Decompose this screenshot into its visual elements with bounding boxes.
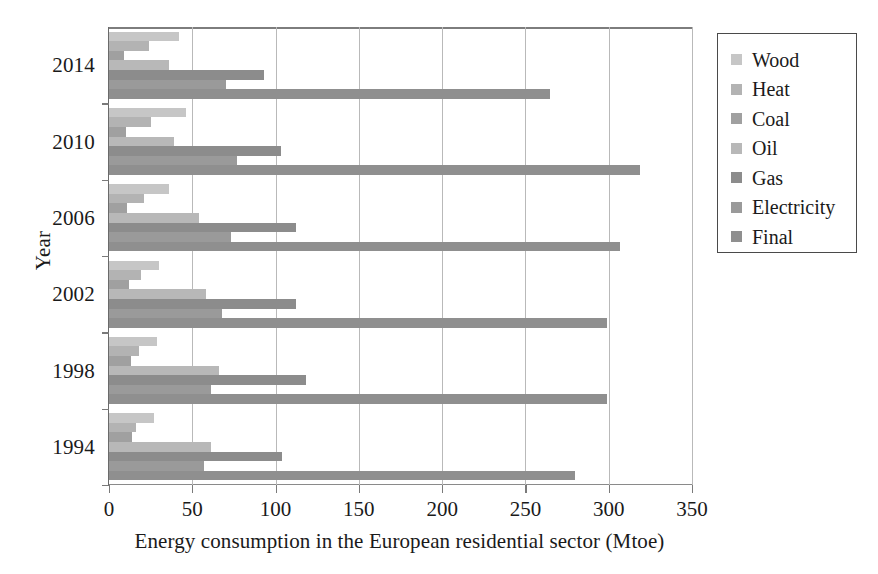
legend-item-label: Heat — [752, 79, 790, 99]
x-axis-tick — [109, 485, 110, 493]
bar — [109, 194, 144, 204]
legend-item[interactable]: Electricity — [731, 193, 856, 223]
legend-item-label: Final — [752, 227, 793, 247]
bar-group — [109, 337, 692, 404]
bar — [109, 280, 129, 290]
bar — [109, 366, 219, 376]
legend-swatch-icon — [731, 54, 742, 65]
x-axis-tick-label: 0 — [104, 497, 115, 522]
bar — [109, 309, 222, 319]
y-axis-tick — [102, 409, 109, 410]
legend-swatch-icon — [731, 143, 742, 154]
x-axis-tick — [192, 485, 193, 493]
bar — [109, 385, 211, 395]
plot-area: 201420102006200219981994 050100150200250… — [108, 27, 692, 485]
bar-group — [109, 261, 692, 328]
legend-swatch-icon — [731, 113, 742, 124]
bar — [109, 471, 575, 481]
legend-swatch-icon — [731, 172, 742, 183]
bar — [109, 337, 157, 347]
x-axis-tick-label: 50 — [182, 497, 203, 522]
bar — [109, 117, 151, 127]
legend-swatch-icon — [731, 84, 742, 95]
bar — [109, 423, 136, 433]
legend-swatch-icon — [731, 231, 742, 242]
bar — [109, 108, 186, 118]
bar — [109, 51, 124, 61]
bar — [109, 184, 169, 194]
y-axis-tick-label: 2010 — [52, 129, 95, 154]
gridline — [692, 27, 693, 485]
chart-figure: Year 201420102006200219981994 0501001502… — [0, 0, 878, 574]
bar-group — [109, 184, 692, 251]
bar — [109, 356, 131, 366]
legend-item-label: Gas — [752, 168, 783, 188]
bar — [109, 89, 550, 99]
y-axis-tick-label: 2014 — [52, 53, 95, 78]
x-axis-tick-label: 200 — [426, 497, 458, 522]
y-axis-tick-label: 2002 — [52, 282, 95, 307]
bar-group — [109, 108, 692, 175]
bar — [109, 394, 607, 404]
legend-item-label: Electricity — [752, 197, 835, 217]
y-axis-tick — [102, 332, 109, 333]
bar — [109, 156, 237, 166]
legend-item[interactable]: Oil — [731, 134, 856, 164]
legend-item[interactable]: Heat — [731, 75, 856, 105]
legend-item[interactable]: Coal — [731, 104, 856, 134]
bar — [109, 242, 620, 252]
x-axis-tick — [442, 485, 443, 493]
legend-item[interactable]: Final — [731, 222, 856, 252]
y-axis-tick-label: 2006 — [52, 205, 95, 230]
legend-item-label: Wood — [752, 50, 799, 70]
bar — [109, 80, 226, 90]
bar — [109, 60, 169, 70]
bar — [109, 137, 174, 147]
y-axis-tick — [102, 180, 109, 181]
plot-bottom-rule — [109, 484, 692, 485]
bar — [109, 318, 607, 328]
legend-swatch-icon — [731, 202, 742, 213]
bar — [109, 203, 127, 213]
legend-item-label: Coal — [752, 109, 790, 129]
x-axis-tick-label: 100 — [260, 497, 292, 522]
bar — [109, 232, 231, 242]
x-axis-tick-label: 150 — [343, 497, 375, 522]
bar — [109, 146, 281, 156]
x-axis-tick — [276, 485, 277, 493]
x-axis-tick-label: 250 — [510, 497, 542, 522]
y-axis-tick — [102, 485, 109, 486]
bar — [109, 165, 640, 175]
bar — [109, 289, 206, 299]
bar — [109, 413, 154, 423]
bar — [109, 270, 141, 280]
bar — [109, 32, 179, 42]
bar-group — [109, 32, 692, 99]
y-axis-tick-label: 1994 — [52, 434, 95, 459]
x-axis-tick-label: 300 — [593, 497, 625, 522]
bar — [109, 223, 296, 233]
bar — [109, 261, 159, 271]
y-axis-tick — [102, 256, 109, 257]
bar — [109, 299, 296, 309]
chart-legend: WoodHeatCoalOilGasElectricityFinal — [717, 33, 857, 253]
bar — [109, 432, 132, 442]
x-axis-tick — [692, 485, 693, 493]
legend-item[interactable]: Wood — [731, 45, 856, 75]
y-axis-tick — [102, 103, 109, 104]
bar — [109, 41, 149, 51]
bar — [109, 442, 211, 452]
legend-item[interactable]: Gas — [731, 163, 856, 193]
bar — [109, 375, 306, 385]
y-axis-tick-label: 1998 — [52, 358, 95, 383]
bar — [109, 70, 264, 80]
bar-group — [109, 413, 692, 480]
x-axis-tick — [525, 485, 526, 493]
x-axis-tick-label: 350 — [676, 497, 708, 522]
x-axis-title: Energy consumption in the European resid… — [108, 529, 691, 554]
x-axis-tick — [359, 485, 360, 493]
plot-top-rule — [109, 27, 692, 29]
bar — [109, 346, 139, 356]
x-axis-tick — [609, 485, 610, 493]
bar — [109, 461, 204, 471]
